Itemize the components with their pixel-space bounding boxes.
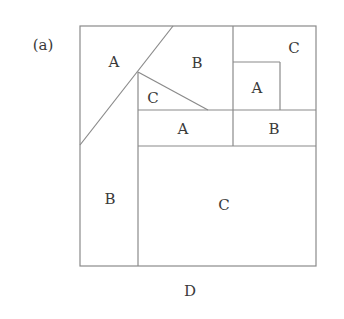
region-label-middle-strip-right: B xyxy=(268,122,279,137)
region-label-small-square: A xyxy=(252,81,263,96)
region-label-top-right: C xyxy=(288,41,299,56)
region-label-small-triangle: C xyxy=(147,91,158,106)
diagonal-line xyxy=(80,26,173,145)
region-label-top-middle: B xyxy=(191,56,202,71)
region-label-bottom-large: C xyxy=(218,198,229,213)
bottom-label: D xyxy=(184,284,196,299)
panel-label: (a) xyxy=(33,38,54,53)
region-label-left-column: B xyxy=(104,192,115,207)
region-label-middle-strip-left: A xyxy=(178,122,189,137)
region-label-top-left-triangle: A xyxy=(109,55,120,70)
